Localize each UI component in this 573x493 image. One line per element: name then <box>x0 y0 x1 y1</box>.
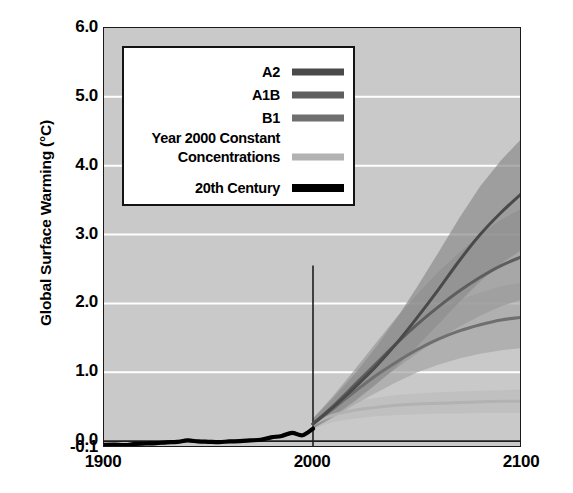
x-tick-label: 1900 <box>85 452 122 472</box>
y-tick-label: 2.0 <box>42 292 98 312</box>
chart-figure: Global Surface Warming (°C) 6.05.04.03.0… <box>0 0 573 493</box>
legend-swatch <box>292 92 344 99</box>
series-line-20th-century <box>104 429 313 445</box>
y-tick-label: 6.0 <box>42 17 98 37</box>
x-tick-label: 2100 <box>503 452 540 472</box>
y-tick-label: 1.0 <box>42 361 98 381</box>
legend-label: A2 <box>128 64 280 81</box>
legend-swatch <box>292 154 344 161</box>
legend-swatch <box>292 69 344 76</box>
legend-swatch <box>292 115 344 122</box>
x-tick-label: 2000 <box>294 452 331 472</box>
legend-label: Year 2000 Constant Concentrations <box>128 129 280 167</box>
y-tick-label: 4.0 <box>42 155 98 175</box>
y-tick-label: 3.0 <box>42 224 98 244</box>
legend-label: A1B <box>128 87 280 104</box>
y-axis-tick-labels: 6.05.04.03.02.01.00.0-0.1 <box>40 0 98 493</box>
y-tick-label: 5.0 <box>42 86 98 106</box>
chart-legend: A2A1BB1Year 2000 Constant Concentrations… <box>122 46 355 206</box>
legend-label: B1 <box>128 110 280 127</box>
legend-label: 20th Century <box>128 180 280 197</box>
legend-swatch <box>292 184 344 192</box>
